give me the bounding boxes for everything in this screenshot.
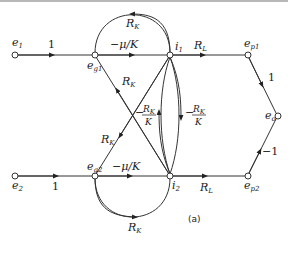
label-i1: i1 [175, 40, 183, 54]
gain-i1-i2: − RK K [185, 104, 206, 127]
gain-i1-ep1: RL [193, 39, 207, 53]
label-eg2: eg2 [87, 160, 103, 174]
gain-i2-eg1: RK [121, 75, 136, 89]
node-i1 [167, 52, 173, 58]
node-ep1 [245, 52, 251, 58]
gain-loop-bottom: RK [127, 221, 142, 235]
branch-i2-eg2-loop [95, 178, 170, 217]
label-eo: eo [265, 109, 276, 123]
label-e2: e2 [12, 179, 24, 193]
svg-text:K: K [194, 117, 203, 127]
gain-ep1-eo: 1 [268, 71, 275, 84]
svg-text:K: K [144, 117, 153, 127]
branch-i2-i1 [161, 57, 170, 174]
label-i2: i2 [172, 179, 181, 193]
branch-i1-i2 [170, 57, 179, 174]
node-eo [275, 113, 281, 119]
gain-eg1-i1: −μ/K [110, 38, 139, 51]
gain-loop-top: RK [125, 17, 140, 31]
label-eg1: eg1 [87, 59, 102, 73]
label-ep1: ep1 [244, 37, 259, 51]
figure-caption: (a) [188, 214, 201, 224]
gain-e1-eg1: 1 [48, 38, 55, 51]
gain-i2-ep2: RL [199, 181, 213, 195]
gain-ep2-eo: −1 [262, 145, 278, 158]
gain-eg2-i2: −μ/K [112, 160, 141, 173]
gain-e2-eg2: 1 [52, 180, 59, 193]
label-ep2: ep2 [244, 179, 260, 193]
label-e1: e1 [12, 36, 23, 50]
node-e1 [12, 52, 18, 58]
signal-flow-graph: e1 eg1 i1 ep1 eo ep2 i2 eg2 e2 1 −μ/K RK… [0, 0, 294, 258]
node-eg1 [92, 52, 98, 58]
gain-i1-eg2: RK [100, 133, 115, 147]
